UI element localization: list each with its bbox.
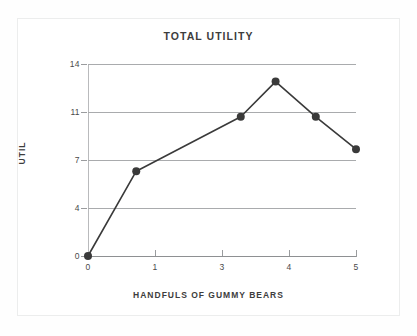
data-point-2[interactable] bbox=[237, 113, 245, 121]
y-tick-mark-14 bbox=[81, 64, 87, 65]
x-tick-label-3: 3 bbox=[207, 262, 237, 272]
chart-page: TOTAL UTILITY UTIL HANDFULS OF GUMMY BEA… bbox=[0, 0, 417, 336]
gridline-y-0 bbox=[88, 256, 356, 257]
data-point-3[interactable] bbox=[272, 78, 280, 86]
x-tick-label-5: 5 bbox=[341, 262, 371, 272]
data-point-1[interactable] bbox=[132, 167, 140, 175]
y-tick-label-4: 4 bbox=[40, 203, 80, 213]
y-tick-label-0: 0 bbox=[40, 251, 80, 261]
y-tick-mark-7 bbox=[81, 160, 87, 161]
y-tick-mark-11 bbox=[81, 112, 87, 113]
chart-title: TOTAL UTILITY bbox=[0, 30, 417, 42]
x-tick-mark-5 bbox=[356, 250, 357, 257]
series-polyline bbox=[88, 82, 356, 256]
x-tick-label-0: 0 bbox=[73, 262, 103, 272]
x-axis-title: HANDFULS OF GUMMY BEARS bbox=[0, 290, 417, 300]
y-axis-title: UTIL bbox=[17, 123, 27, 183]
y-tick-label-7: 7 bbox=[40, 155, 80, 165]
y-tick-label-14: 14 bbox=[40, 59, 80, 69]
plot-area bbox=[88, 64, 356, 256]
x-tick-label-1: 1 bbox=[140, 262, 170, 272]
data-point-5[interactable] bbox=[352, 145, 360, 153]
y-tick-label-11: 11 bbox=[40, 107, 80, 117]
x-tick-label-4: 4 bbox=[274, 262, 304, 272]
y-tick-mark-4 bbox=[81, 208, 87, 209]
data-point-4[interactable] bbox=[312, 113, 320, 121]
series-markers bbox=[84, 78, 360, 260]
line-series bbox=[88, 64, 356, 256]
data-point-0[interactable] bbox=[84, 252, 92, 260]
